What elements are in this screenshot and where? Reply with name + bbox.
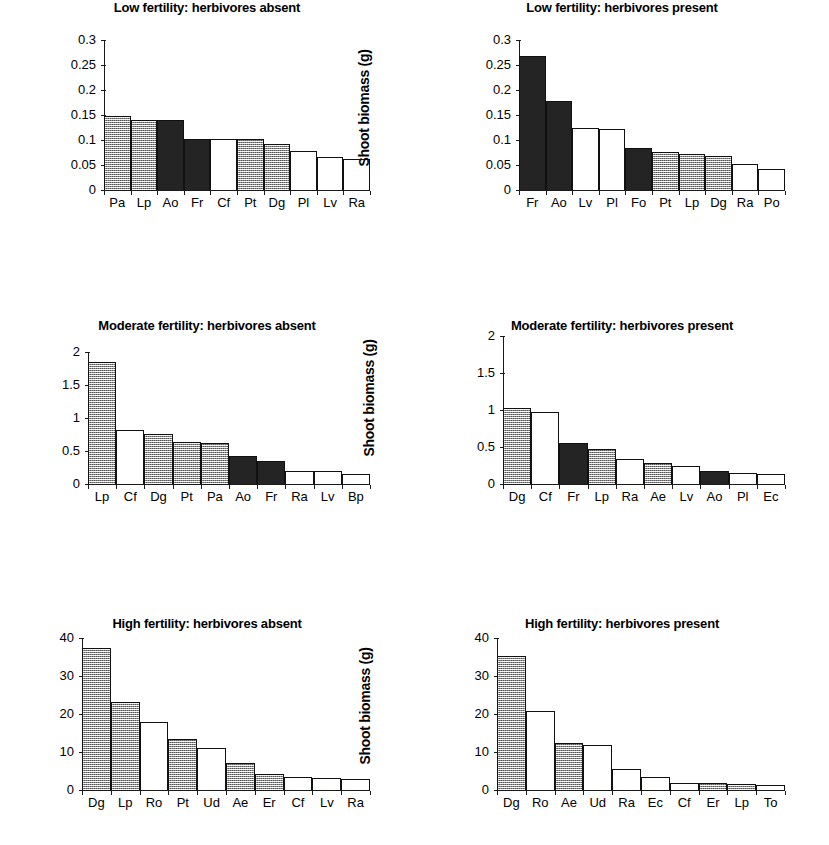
y-axis-tick-label: 0 [28, 783, 74, 796]
x-axis-tick [370, 191, 371, 195]
chart-panel: Low fertility: herbivores presentShoot b… [415, 0, 829, 282]
x-axis-tick [255, 791, 256, 795]
y-axis-tick [494, 638, 499, 639]
y-axis-tick-label: 1 [34, 411, 80, 424]
bar [756, 785, 785, 790]
y-axis-tick [516, 40, 521, 41]
bar [503, 408, 531, 484]
bar [184, 139, 211, 191]
bar [116, 430, 144, 484]
bar [314, 471, 342, 484]
x-axis-tick [625, 191, 626, 195]
x-axis-tick [342, 485, 343, 489]
y-axis-tick [500, 373, 505, 374]
bar [531, 412, 559, 484]
y-axis-tick-label: 10 [443, 745, 489, 758]
x-axis-tick [290, 191, 291, 195]
x-axis-tick [229, 485, 230, 489]
bar [197, 748, 226, 790]
y-axis-tick-label: 0 [34, 477, 80, 490]
y-axis-tick-label: 1.5 [34, 378, 80, 391]
x-axis-tick [82, 791, 83, 795]
x-axis-tick [700, 485, 701, 489]
y-axis-tick-label: 40 [443, 631, 489, 644]
x-axis-tick [370, 485, 371, 489]
y-axis-tick-label: 1 [449, 403, 495, 416]
x-axis-tick [672, 485, 673, 489]
x-axis-tick [140, 791, 141, 795]
chart-title: Moderate fertility: herbivores absent [0, 318, 414, 333]
x-axis-tick-label: Ra [333, 796, 378, 810]
bar [255, 774, 284, 790]
bar [144, 434, 172, 484]
bar [572, 128, 599, 190]
x-axis-tick [679, 191, 680, 195]
y-axis-tick [101, 90, 106, 91]
y-axis-tick-label: 2 [449, 329, 495, 342]
x-axis-tick [257, 485, 258, 489]
x-axis-tick [705, 191, 706, 195]
plot-area: 010203040DgRoAeUdRaEcCfErLpTo [497, 638, 785, 790]
y-axis-tick-label: 20 [28, 707, 74, 720]
bar [257, 461, 285, 484]
x-axis-tick [168, 791, 169, 795]
y-axis-label: Shoot biomass (g) [356, 33, 374, 183]
x-axis-tick [616, 485, 617, 489]
bar [526, 711, 555, 790]
x-axis-tick [758, 191, 759, 195]
x-axis-tick [343, 191, 344, 195]
chart-title: High fertility: herbivores present [415, 616, 829, 631]
x-axis-tick [756, 791, 757, 795]
bar [342, 474, 370, 484]
chart-panel: Moderate fertility: herbivores presentSh… [415, 300, 829, 582]
x-axis-tick [555, 791, 556, 795]
y-axis-tick-label: 0.5 [34, 444, 80, 457]
bar [555, 743, 584, 790]
y-axis-tick-label: 0.15 [465, 108, 511, 121]
x-axis-tick [732, 191, 733, 195]
bar [546, 101, 573, 190]
x-axis-tick [173, 485, 174, 489]
y-axis-tick-label: 0 [443, 783, 489, 796]
x-axis-tick [785, 485, 786, 489]
x-axis-tick-label: Ra [335, 196, 378, 210]
bar [679, 154, 706, 191]
x-axis-tick [652, 191, 653, 195]
x-axis-tick [370, 791, 371, 795]
y-axis-tick-label: 0.25 [465, 58, 511, 71]
y-axis-tick-label: 0 [465, 183, 511, 196]
x-axis-tick [144, 485, 145, 489]
y-axis-tick [101, 65, 106, 66]
x-axis-tick [612, 791, 613, 795]
y-axis-tick-label: 0.2 [50, 83, 96, 96]
bar [88, 362, 116, 484]
x-axis-tick [519, 191, 520, 195]
x-axis-tick [104, 191, 105, 195]
x-axis-tick [237, 191, 238, 195]
bar [237, 139, 264, 190]
y-axis-tick-label: 0.2 [465, 83, 511, 96]
bar [699, 783, 728, 790]
y-axis-tick-label: 0 [50, 183, 96, 196]
x-axis-tick [312, 791, 313, 795]
y-axis-tick-label: 0.1 [465, 133, 511, 146]
y-axis-tick-label: 0.05 [50, 158, 96, 171]
y-axis-tick-label: 40 [28, 631, 74, 644]
y-axis-tick-label: 0.3 [50, 33, 96, 46]
bar [583, 745, 612, 790]
bar [729, 473, 757, 484]
bar [652, 152, 679, 190]
chart-title: Low fertility: herbivores present [415, 0, 829, 15]
x-axis-tick [197, 791, 198, 795]
x-axis-tick [727, 791, 728, 795]
figure-panel-grid: Low fertility: herbivores absentShoot bi… [0, 0, 829, 845]
x-axis-tick [111, 791, 112, 795]
bar [727, 784, 756, 790]
x-axis-tick [546, 191, 547, 195]
x-axis-tick [531, 485, 532, 489]
x-axis-tick [210, 191, 211, 195]
x-axis-tick [317, 191, 318, 195]
bar [104, 116, 131, 190]
bar [140, 722, 169, 790]
x-axis-tick [757, 485, 758, 489]
